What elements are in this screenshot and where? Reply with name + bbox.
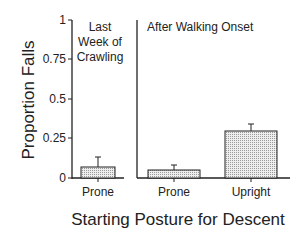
y-tick-05: 0.5 <box>49 92 66 106</box>
x-label-walk-prone: Prone <box>158 185 190 199</box>
y-axis-label: Proportion Falls <box>19 40 38 159</box>
x-label-crawl-prone: Prone <box>82 185 114 199</box>
panel-label-crawl-3: Crawling <box>77 50 124 64</box>
x-axis-label: Starting Posture for Descent <box>71 210 285 229</box>
y-tick-025: 0.25 <box>43 131 67 145</box>
y-tick-0: 0 <box>59 171 66 185</box>
panel-label-crawl-2: Week of <box>78 35 122 49</box>
bar-walk-prone <box>148 170 200 178</box>
panel-label-walk: After Walking Onset <box>147 20 254 34</box>
bar-walk-upright <box>225 131 277 178</box>
y-tick-075: 0.75 <box>43 52 67 66</box>
bar-crawl-prone <box>81 167 115 178</box>
panel-label-crawl-1: Last <box>89 20 112 34</box>
y-tick-1: 1 <box>59 13 66 27</box>
bar-chart: 1 0.75 0.5 0.25 0 Proportion Falls Last … <box>0 0 307 240</box>
x-label-walk-upright: Upright <box>232 185 271 199</box>
